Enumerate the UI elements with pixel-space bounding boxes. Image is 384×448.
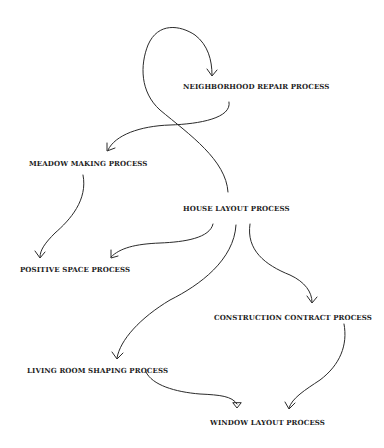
node-construction-contract-process: CONSTRUCTION CONTRACT PROCESS — [214, 313, 372, 322]
edge-house-to-living — [112, 225, 236, 359]
node-window-layout-process: WINDOW LAYOUT PROCESS — [210, 418, 325, 427]
edge-meadow-to-positive — [35, 175, 84, 258]
node-living-room-shaping-process: LIVING ROOM SHAPING PROCESS — [27, 366, 168, 375]
edge-house-to-neighborhood — [143, 27, 228, 192]
edge-construction-to-window — [285, 324, 345, 409]
node-positive-space-process: POSITIVE SPACE PROCESS — [20, 265, 130, 274]
process-diagram: NEIGHBORHOOD REPAIR PROCESS MEADOW MAKIN… — [0, 0, 384, 448]
node-meadow-making-process: MEADOW MAKING PROCESS — [29, 159, 147, 168]
edge-house-to-construction — [249, 224, 317, 303]
node-house-layout-process: HOUSE LAYOUT PROCESS — [183, 204, 290, 213]
edge-neighborhood-to-meadow — [107, 102, 229, 151]
diagram-edges — [0, 0, 384, 448]
edge-living-to-window — [146, 372, 241, 408]
edge-house-to-positive — [111, 224, 213, 258]
node-neighborhood-repair-process: NEIGHBORHOOD REPAIR PROCESS — [183, 82, 330, 91]
